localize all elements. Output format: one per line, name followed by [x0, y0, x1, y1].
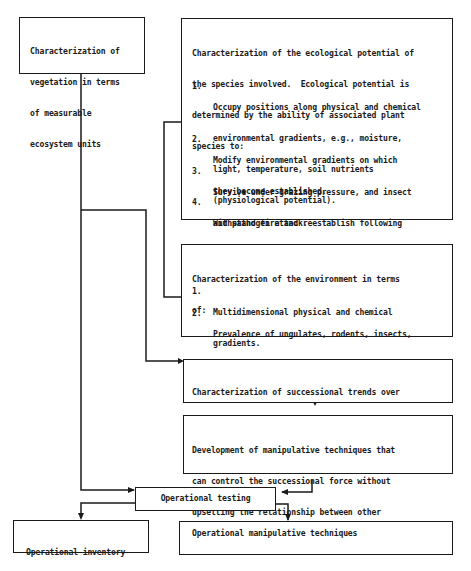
vegetation-line: ecosystem units	[30, 139, 120, 149]
successional-line: Characterization of successional trends …	[192, 387, 400, 397]
item-line: Occupy positions along physical and chem…	[213, 102, 421, 112]
manipulative-development-box: Development of manipulative techniques t…	[183, 415, 453, 474]
ecological-item-4: 4. Withstand fire and reestablish follow…	[192, 197, 447, 219]
item-number: 4.	[192, 197, 201, 207]
ecological-item-1: 1. Occupy positions along physical and c…	[192, 81, 447, 123]
item-number: 3.	[192, 166, 201, 176]
vegetation-characterization-box: Characterization of vegetation in terms …	[19, 17, 145, 74]
ecological-potential-box: Characterization of the ecological poten…	[181, 18, 453, 220]
vegetation-line: of measurable	[30, 108, 120, 118]
item-line: Withstand fire and reestablish following	[213, 218, 402, 228]
development-line: can control the successional force witho…	[192, 476, 395, 486]
environment-characterization-box: Characterization of the environment in t…	[181, 244, 453, 337]
manipulative-ops-label: Operational manipulative techniques	[192, 528, 357, 538]
environment-item-2: 2. Prevalence of ungulates, rodents, ins…	[192, 308, 447, 330]
successional-trends-box: Characterization of successional trends …	[183, 359, 453, 403]
arrow-to-inventory-icon	[78, 513, 84, 520]
arrow-to-testing-left-icon	[128, 487, 135, 493]
development-line: Development of manipulative techniques t…	[192, 445, 395, 455]
item-line: Prevalence of ungulates, rodents, insect…	[213, 329, 411, 339]
ecological-item-3: 3. Survive under grazing pressure, and i…	[192, 166, 447, 188]
item-number: 2.	[192, 134, 201, 144]
item-number: 2.	[192, 308, 201, 318]
item-number: 1.	[192, 81, 201, 91]
item-line: Survive under grazing pressure, and inse…	[213, 187, 411, 197]
item-line: Modify environmental gradients on which	[213, 155, 397, 165]
environment-intro-line: Characterization of the environment in t…	[192, 274, 400, 284]
vegetation-line: Characterization of	[30, 46, 120, 56]
operational-inventory-box: Operational inventory techniques	[13, 520, 149, 553]
operational-testing-label: Operational testing	[136, 493, 275, 503]
inventory-line: Operational inventory	[26, 547, 125, 557]
operational-manipulative-box: Operational manipulative techniques	[179, 521, 453, 555]
ecological-item-2: 2. Modify environmental gradients on whi…	[192, 134, 447, 156]
item-number: 1.	[192, 286, 201, 296]
environment-item-1: 1. Multidimensional physical and chemica…	[192, 286, 447, 308]
ecological-intro-line: Characterization of the ecological poten…	[192, 48, 414, 58]
vegetation-line: vegetation in terms	[30, 77, 120, 87]
operational-testing-box: Operational testing	[135, 487, 276, 511]
